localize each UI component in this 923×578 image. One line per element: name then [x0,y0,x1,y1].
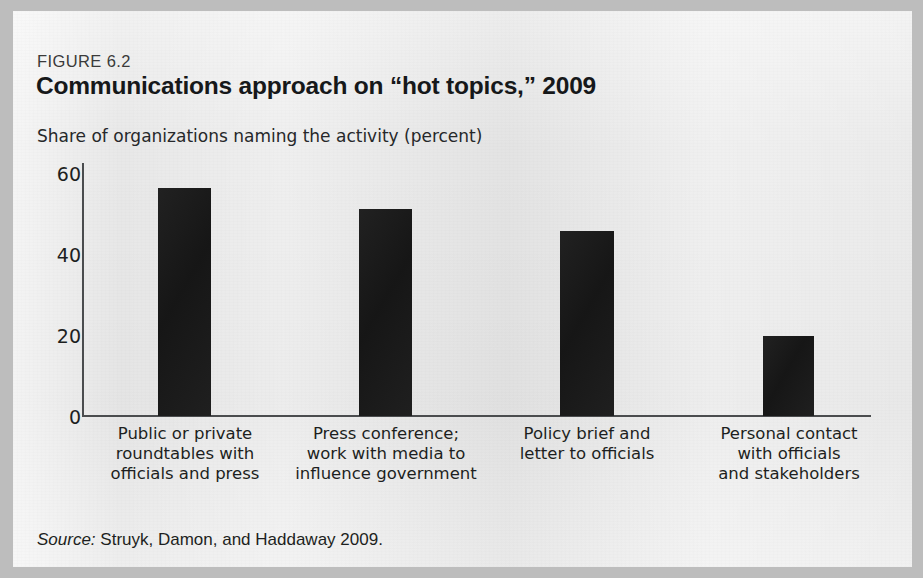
y-axis-line [82,163,84,416]
source-citation: Struyk, Damon, and Haddaway 2009. [96,530,383,549]
source-note: Source: Struyk, Damon, and Haddaway 2009… [37,530,383,550]
x-category-label-3: Policy brief and letter to officials [501,424,673,464]
y-tick-40: 40 [57,246,81,265]
y-tick-0: 0 [69,408,81,427]
figure-card: FIGURE 6.2 Communications approach on “h… [13,11,912,567]
bar-policy-brief [560,231,614,417]
x-category-label-4: Personal contact with officials and stak… [699,424,879,484]
bar-public-roundtables [158,188,211,416]
bar-press-conference [359,209,412,416]
x-category-label-1: Public or private roundtables with offic… [88,424,282,484]
y-axis-tick-labels: 0 20 40 60 [29,11,81,567]
bar-chart-plot-area: 0 20 40 60 Public or private roundtables… [13,11,912,567]
y-tick-60: 60 [57,165,81,184]
bar-personal-contact [763,336,814,416]
source-label: Source: [37,530,96,549]
y-tick-20: 20 [57,327,81,346]
scanned-page: FIGURE 6.2 Communications approach on “h… [0,0,923,578]
x-category-label-2: Press conference; work with media to inf… [286,424,486,484]
